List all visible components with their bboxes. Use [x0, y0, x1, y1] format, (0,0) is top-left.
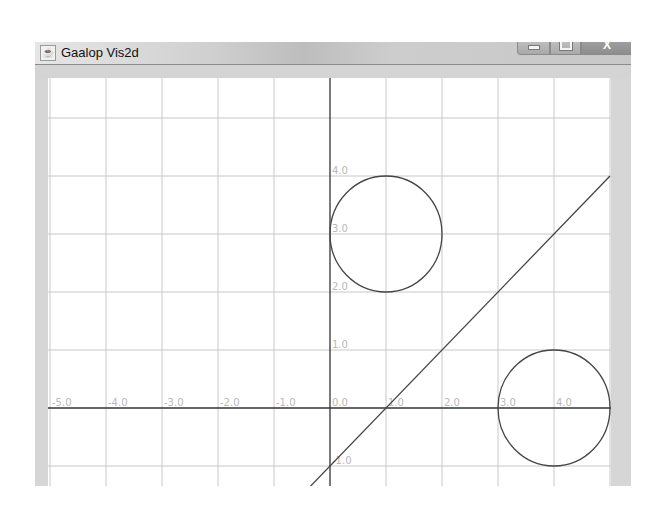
- x-tick-label: -1.0: [276, 397, 296, 408]
- plot-canvas[interactable]: -5.0-4.0-3.0-2.0-1.00.01.02.03.04.04.03.…: [48, 78, 611, 486]
- y-tick-label: 2.0: [332, 281, 348, 292]
- window-controls: X: [517, 42, 631, 54]
- plot-svg: -5.0-4.0-3.0-2.0-1.00.01.02.03.04.04.03.…: [48, 78, 611, 486]
- y-tick-label: 3.0: [332, 223, 348, 234]
- maximize-icon: [560, 42, 572, 50]
- x-tick-label: 4.0: [556, 397, 572, 408]
- minimize-button[interactable]: [517, 42, 550, 55]
- close-button[interactable]: X: [581, 42, 631, 55]
- window-title: Gaalop Vis2d: [61, 45, 139, 60]
- app-window: ☕ Gaalop Vis2d X -5.0-4.0-3.0-2.0-1.00.0…: [35, 42, 631, 486]
- x-tick-label: 2.0: [444, 397, 460, 408]
- x-tick-label: -5.0: [52, 397, 72, 408]
- minimize-icon: [528, 45, 540, 50]
- close-icon: X: [603, 42, 611, 52]
- y-tick-label: 1.0: [332, 339, 348, 350]
- x-tick-label: 1.0: [388, 397, 404, 408]
- y-tick-label: 4.0: [332, 165, 348, 176]
- window-frame: [35, 64, 631, 79]
- title-bar[interactable]: ☕ Gaalop Vis2d X: [35, 42, 631, 64]
- maximize-button[interactable]: [550, 42, 581, 55]
- x-tick-label: -2.0: [220, 397, 240, 408]
- x-tick-label: -4.0: [108, 397, 128, 408]
- x-tick-label: 3.0: [500, 397, 516, 408]
- x-tick-label: 0.0: [332, 397, 348, 408]
- java-cup-icon: ☕: [40, 45, 56, 61]
- x-tick-label: -3.0: [164, 397, 184, 408]
